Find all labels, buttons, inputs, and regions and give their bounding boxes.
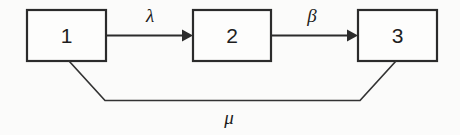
node-1-label: 1 — [61, 24, 73, 47]
node-1-group[interactable]: 1 — [27, 10, 106, 61]
state-transition-diagram: 1 2 3 λ β μ — [0, 0, 460, 135]
node-3-label: 3 — [392, 24, 404, 47]
edge-lambda-group[interactable]: λ — [106, 5, 193, 42]
node-3-group[interactable]: 3 — [358, 10, 437, 61]
edge-beta-group[interactable]: β — [271, 5, 358, 42]
diagram-canvas: 1 2 3 λ β μ — [0, 0, 460, 135]
edge-lambda-arrowhead-icon — [182, 30, 193, 42]
node-2-group[interactable]: 2 — [193, 10, 271, 61]
edge-beta-label: β — [306, 5, 317, 26]
edge-mu-label: μ — [223, 107, 234, 128]
edge-lambda-label: λ — [145, 5, 154, 26]
edge-beta-arrowhead-icon — [347, 30, 358, 42]
node-2-label: 2 — [226, 24, 238, 47]
edge-mu-group[interactable]: μ — [69, 61, 396, 128]
edge-mu-path — [69, 61, 396, 101]
